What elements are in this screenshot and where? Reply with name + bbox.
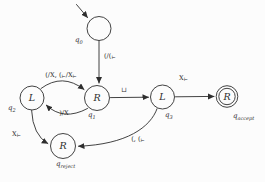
transition-label-q1-q3: ⊔	[121, 86, 127, 94]
state-q3: L	[151, 85, 175, 109]
edge-q2-to-qreject	[32, 111, 48, 144]
transition-label-q1-q2: )/X	[59, 109, 69, 117]
state-inner-label-q3: L	[158, 91, 165, 102]
state-name-q0: q0	[75, 36, 83, 45]
state-name-q3: q3	[165, 111, 173, 120]
transition-label-q2-q1: (/X, (⊢/X⊢	[45, 71, 76, 79]
state-q0	[87, 17, 111, 41]
state-inner-label-qreject: R	[58, 140, 66, 151]
state-name-qaccept: qaccept	[233, 112, 255, 122]
state-name-q1: q1	[88, 111, 96, 120]
state-inner-label-qaccept: R	[222, 91, 230, 102]
transition-label-q0-q1: (/(⊢	[104, 52, 116, 60]
state-inner-label-q2: L	[28, 92, 35, 103]
diagram-canvas: R L L R R q0 q1 q2 q3 qaccept qreject (/…	[0, 0, 265, 182]
state-qaccept: R	[216, 86, 238, 108]
edge-q2-to-q1	[41, 81, 84, 90]
state-qreject: R	[51, 134, 76, 159]
state-circle-q0	[87, 17, 111, 41]
transition-label-q3-qreject: (, (⊢	[131, 135, 144, 143]
turing-machine-state-diagram: R L L R R q0 q1 q2 q3 qaccept qreject (/…	[0, 0, 265, 182]
state-name-q2: q2	[8, 104, 16, 113]
transition-label-q2-qreject: X⊢	[12, 130, 21, 138]
state-q1: R	[85, 86, 110, 111]
state-q2: L	[20, 86, 44, 110]
state-name-qreject: qreject	[56, 160, 76, 170]
start-arrow	[77, 5, 88, 18]
state-inner-label-q1: R	[92, 92, 100, 103]
transition-label-q3-qaccept: X⊢	[179, 74, 188, 82]
